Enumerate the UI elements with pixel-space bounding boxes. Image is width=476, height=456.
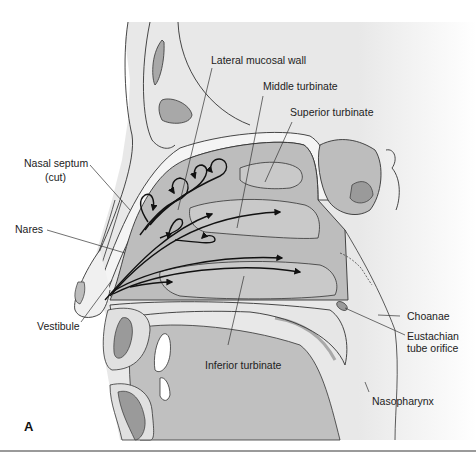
middle-turbinate	[190, 199, 320, 238]
label-nasopharynx: Nasopharynx	[372, 395, 434, 407]
label-vestibule: Vestibule	[37, 320, 80, 332]
nasal-anatomy-diagram	[0, 0, 476, 456]
label-nares: Nares	[15, 223, 43, 235]
label-choanae: Choanae	[407, 310, 450, 322]
label-nasal-septum-note: (cut)	[45, 171, 66, 183]
label-inferior-turbinate: Inferior turbinate	[205, 359, 281, 371]
label-lateral-mucosal-wall: Lateral mucosal wall	[211, 54, 306, 66]
label-middle-turbinate: Middle turbinate	[263, 80, 338, 92]
label-superior-turbinate: Superior turbinate	[290, 106, 373, 118]
panel-label: A	[24, 419, 33, 434]
label-eustachian-2: tube orifice	[407, 342, 458, 354]
label-nasal-septum: Nasal septum	[24, 157, 88, 169]
label-eustachian-1: Eustachian	[407, 330, 459, 342]
bottom-rule	[0, 450, 476, 452]
